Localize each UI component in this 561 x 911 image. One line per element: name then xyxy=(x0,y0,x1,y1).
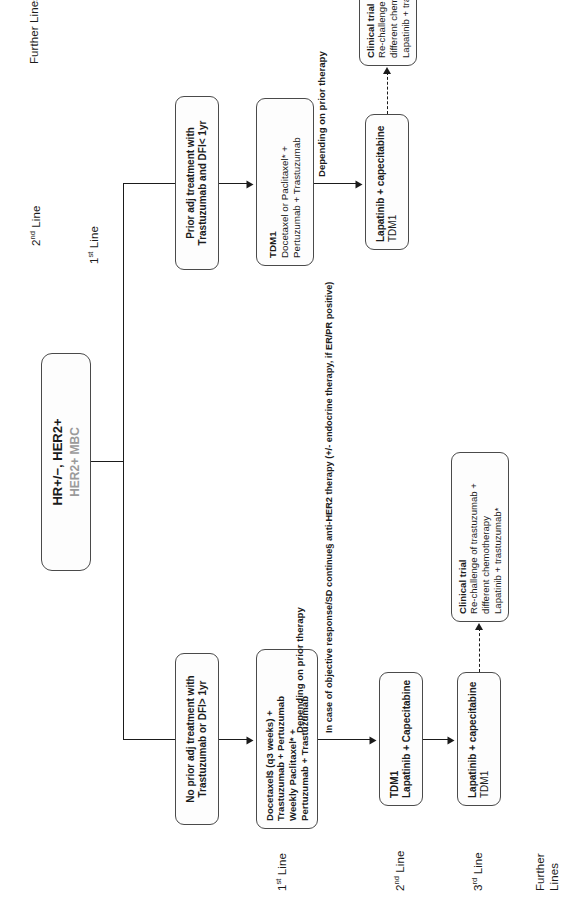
arrowhead-left-first-to-second xyxy=(370,737,377,745)
connector-right-second-to-further xyxy=(387,72,388,114)
connector-left-first-to-second xyxy=(318,739,371,740)
note-right-depending: Depending on prior therapy xyxy=(316,51,328,177)
connector-to-left-condition xyxy=(163,739,175,740)
left-second-line1: TDM1 xyxy=(389,771,401,798)
right-condition-line2: Trastuzumab and DFI< 1yr xyxy=(197,121,209,246)
connector-left-third-to-further xyxy=(479,628,480,672)
note-left-continuation: In case of objective response/SD continu… xyxy=(324,282,336,733)
connector-split-bar xyxy=(123,184,124,740)
stage-label-right-second: 2nd Line xyxy=(28,206,42,246)
arrowhead-left-second-to-third xyxy=(448,737,455,745)
node-root-diagnosis[interactable]: HR+/−, HER2+ HER2+ MBC xyxy=(41,353,91,571)
right-second-line1: Lapatinib + capecitabine xyxy=(375,126,387,242)
stage-label-left-further-line1: Further xyxy=(534,853,548,891)
left-condition-line1: No prior adj treatment with xyxy=(185,675,197,802)
connector-to-right-condition xyxy=(163,183,175,184)
connector-left-second-to-third xyxy=(423,739,449,740)
node-left-second-line[interactable]: TDM1 Lapatinib + Capecitabine xyxy=(379,672,423,806)
node-left-first-line[interactable]: Docetaxel$ (q3 weeks) + Trastuzumab + Pe… xyxy=(256,649,318,829)
left-further-line4: Lapatinib + trastuzumab* xyxy=(492,508,504,614)
right-condition-line1: Prior adj treatment with xyxy=(185,127,197,239)
right-first-line2: Docetaxel or Paclitaxel* + xyxy=(279,146,291,258)
left-further-line2: Re-challenge of trastuzumab + xyxy=(468,483,480,614)
left-condition-line2: Trastuzumab or DFI> 1yr xyxy=(197,681,209,798)
left-third-line1: Lapatinib + capecitabine xyxy=(467,682,479,798)
note-left-depending-text: Depending on prior therapy xyxy=(294,607,305,733)
stage-label-right-first: 1st Line xyxy=(86,226,100,264)
node-right-first-line[interactable]: TDM1 Docetaxel or Paclitaxel* + Pertuzum… xyxy=(256,98,314,266)
connector-right-cond-to-first xyxy=(219,183,248,184)
connector-right-first-to-second xyxy=(314,183,357,184)
left-first-line1: Docetaxel$ (q3 weeks) + xyxy=(264,710,276,821)
root-title-secondary: HER2+ MBC xyxy=(68,427,83,497)
arrowhead-left-third-to-further xyxy=(475,623,483,630)
right-further-line3: different chemotherapy xyxy=(388,0,400,58)
arrowhead-right-cond-to-first xyxy=(247,181,254,189)
ordinal-suffix: st xyxy=(274,878,283,884)
right-further-line2: Re-challenge of trastuzumab + xyxy=(376,0,388,58)
right-first-line1: TDM1 xyxy=(267,231,279,258)
stage-label-left-second: 2nd Line xyxy=(392,851,406,891)
stage-label-left-further: Further Lines xyxy=(534,853,561,891)
note-left-depending: Depending on prior therapy xyxy=(294,607,306,733)
stage-label-right-further: Further Lines xyxy=(28,0,40,64)
ordinal-suffix: nd xyxy=(28,231,37,240)
left-second-line2: Lapatinib + Capecitabine xyxy=(401,680,413,798)
root-title-primary: HR+/−, HER2+ xyxy=(50,418,66,505)
right-further-line4: Lapatinib + trastuzumab* xyxy=(400,0,412,58)
ordinal-suffix: st xyxy=(86,251,95,257)
node-right-second-line[interactable]: Lapatinib + capecitabine TDM1 xyxy=(365,114,409,250)
connector-branch-right-riser xyxy=(123,183,163,184)
left-third-line2: TDM1 xyxy=(479,771,491,798)
node-left-condition[interactable]: No prior adj treatment with Trastuzumab … xyxy=(175,653,219,825)
arrowhead-right-second-to-further xyxy=(383,67,391,74)
ordinal-suffix: rd xyxy=(470,878,479,885)
connector-root-stem xyxy=(91,461,123,462)
note-right-depending-text: Depending on prior therapy xyxy=(316,51,327,177)
left-further-line3: different chemotherapy xyxy=(480,516,492,614)
stage-label-left-third: 3rd Line xyxy=(470,852,484,891)
node-left-third-line[interactable]: Lapatinib + capecitabine TDM1 xyxy=(457,672,501,806)
stage-label-left-first: 1st Line xyxy=(274,853,288,891)
node-right-further-lines[interactable]: Clinical trial Re-challenge of trastuzum… xyxy=(359,0,417,66)
left-further-line1: Clinical trial xyxy=(457,560,469,614)
right-first-line3: Pertuzumab + Trastuzumab xyxy=(291,137,303,258)
connector-left-cond-to-first xyxy=(219,739,248,740)
note-left-continuation-line2: continue§ anti-HER2 therapy (+/- endocri… xyxy=(324,398,334,587)
left-first-line2: Trastuzumab + Pertuzumab xyxy=(275,696,287,821)
connector-branch-left-riser xyxy=(123,739,163,740)
right-second-line2: TDM1 xyxy=(387,215,399,242)
node-right-condition[interactable]: Prior adj treatment with Trastuzumab and… xyxy=(175,96,219,270)
note-left-continuation-line3: therapy, if ER/PR positive) xyxy=(324,282,334,396)
left-first-line3: Weekly Paclitaxel* + xyxy=(287,729,299,821)
stage-label-left-further-line2: Lines xyxy=(548,853,561,891)
ordinal-suffix: nd xyxy=(392,876,401,885)
node-left-further-lines[interactable]: Clinical trial Re-challenge of trastuzum… xyxy=(451,452,509,622)
arrowhead-right-first-to-second xyxy=(356,181,363,189)
note-left-continuation-line1: In case of objective response/SD xyxy=(324,590,334,733)
arrowhead-left-cond-to-first xyxy=(247,737,254,745)
right-further-line1: Clinical trial xyxy=(365,4,377,58)
